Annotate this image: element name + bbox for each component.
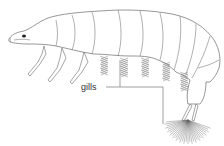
anatomy-diagram: gills <box>0 0 224 146</box>
leg <box>70 52 88 84</box>
tail <box>164 104 210 144</box>
gill-tuft <box>141 58 149 77</box>
tail-prong <box>192 104 198 121</box>
legs <box>28 46 88 84</box>
gill-tuft <box>100 56 108 75</box>
tail-prong <box>182 104 192 121</box>
eye <box>22 34 26 37</box>
tail-gill-fan <box>164 120 210 144</box>
leg <box>28 46 46 76</box>
leader-line <box>120 60 163 124</box>
gills-label: gills <box>81 82 97 92</box>
gill-tuft <box>120 58 128 77</box>
leg <box>48 48 66 82</box>
